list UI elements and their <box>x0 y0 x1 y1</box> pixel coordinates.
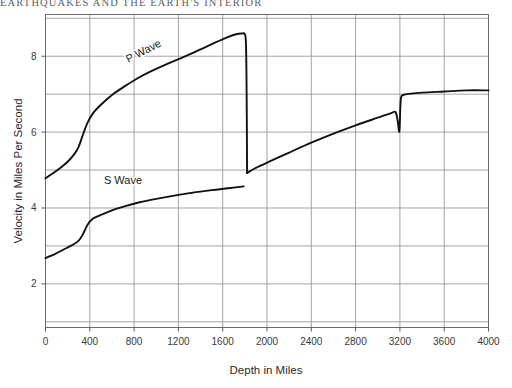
x-tick-label: 0 <box>43 336 49 347</box>
y-axis-tick-marks <box>42 56 46 284</box>
x-tick-label: 3200 <box>389 336 412 347</box>
x-axis-title: Depth in Miles <box>230 364 303 376</box>
series-labels-group: P WaveP WaveS WaveS Wave <box>104 37 163 187</box>
y-tick-label: 8 <box>31 51 37 62</box>
x-tick-label: 800 <box>126 336 143 347</box>
x-tick-label: 2800 <box>344 336 367 347</box>
x-tick-label: 400 <box>81 336 98 347</box>
x-tick-label: 3600 <box>433 336 456 347</box>
x-axis-tick-labels: 040080012001600200024002800320036004000 <box>43 336 500 347</box>
y-axis-tick-labels: 2468 <box>31 51 37 290</box>
x-tick-label: 1200 <box>167 336 190 347</box>
y-axis-title: Velocity in Miles Per Second <box>12 98 24 243</box>
series-line-s-wave <box>46 186 244 258</box>
series-label-p-wave: P Wave <box>124 37 163 65</box>
grid-lines-vertical <box>90 15 444 328</box>
x-tick-label: 2400 <box>300 336 323 347</box>
x-tick-label: 4000 <box>477 336 500 347</box>
y-tick-label: 2 <box>31 278 37 289</box>
seismic-velocity-chart: 040080012001600200024002800320036004000 … <box>0 0 512 388</box>
y-tick-label: 4 <box>31 202 37 213</box>
chart-canvas: 040080012001600200024002800320036004000 … <box>0 0 512 388</box>
y-tick-label: 6 <box>31 127 37 138</box>
series-label-s-wave: S Wave <box>104 174 142 186</box>
x-axis-tick-marks <box>46 328 489 332</box>
x-tick-label: 2000 <box>256 336 279 347</box>
x-tick-label: 1600 <box>212 336 235 347</box>
